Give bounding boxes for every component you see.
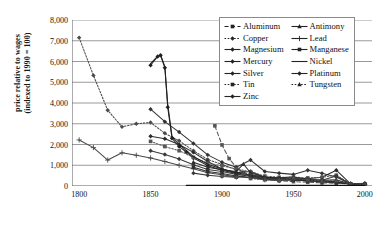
data-point xyxy=(231,25,235,29)
data-point xyxy=(220,143,224,147)
legend-marker-icon xyxy=(224,80,241,89)
legend-item-manganese[interactable]: Manganese xyxy=(291,44,349,56)
x-tick-label: 1950 xyxy=(285,190,301,199)
legend-marker-icon xyxy=(224,57,241,66)
legend-marker-icon xyxy=(291,34,308,43)
y-tick-label: 7,000 xyxy=(34,36,68,45)
data-point xyxy=(163,152,167,156)
y-tick-label: 8,000 xyxy=(34,16,68,25)
x-tick-label: 1800 xyxy=(71,190,87,199)
legend-item-mercury[interactable]: Mercury xyxy=(224,56,284,68)
data-point xyxy=(163,136,167,140)
y-tick-label: 6,000 xyxy=(34,57,68,66)
data-point xyxy=(206,170,210,174)
legend-label: Lead xyxy=(310,34,327,43)
legend-marker-icon xyxy=(291,69,308,78)
x-tick-label: 1850 xyxy=(143,190,159,199)
legend-marker-icon xyxy=(291,22,308,31)
data-point xyxy=(191,160,195,164)
data-point xyxy=(306,168,310,172)
chart-legend: AluminumAntimonyCopperLeadMagnesiumManga… xyxy=(219,17,355,106)
y-axis-title-line1: price relative to wages xyxy=(13,0,23,148)
data-point xyxy=(230,48,234,52)
data-point xyxy=(148,134,152,138)
data-point xyxy=(177,157,181,161)
x-tick-label: 1900 xyxy=(214,190,230,199)
legend-item-platinum[interactable]: Platinum xyxy=(291,67,349,79)
y-tick-label: 5,000 xyxy=(34,78,68,87)
legend-marker-icon xyxy=(291,57,308,66)
x-axis-tick-labels: 18001850190019502000 xyxy=(0,190,382,204)
data-point xyxy=(163,145,167,149)
y-tick-label: 1,000 xyxy=(34,161,68,170)
y-tick-label: 4,000 xyxy=(34,99,68,108)
legend-marker-icon xyxy=(291,80,308,89)
legend-label: Copper xyxy=(243,34,268,43)
legend-label: Nickel xyxy=(310,57,333,66)
legend-item-tungsten[interactable]: Tungsten xyxy=(291,79,349,91)
legend-item-aluminum[interactable]: Aluminum xyxy=(224,21,284,33)
data-point xyxy=(77,35,81,39)
data-point xyxy=(213,124,217,128)
data-point xyxy=(277,171,281,175)
data-point xyxy=(320,171,324,175)
data-point xyxy=(220,164,224,168)
data-point xyxy=(230,71,234,75)
legend-item-nickel[interactable]: Nickel xyxy=(291,56,349,68)
y-tick-label: 3,000 xyxy=(34,119,68,128)
legend-marker-icon xyxy=(291,45,308,54)
legend-marker-icon xyxy=(224,92,241,101)
data-point xyxy=(191,171,195,175)
legend-label: Mercury xyxy=(243,57,273,66)
legend-item-copper[interactable]: Copper xyxy=(224,33,284,45)
legend-label: Aluminum xyxy=(243,22,280,31)
legend-item-tin[interactable]: Tin xyxy=(224,79,284,91)
data-point xyxy=(230,36,234,40)
data-point xyxy=(134,122,138,126)
data-point xyxy=(231,83,235,87)
legend-label: Zinc xyxy=(243,92,259,101)
data-point xyxy=(297,71,301,75)
legend-marker-icon xyxy=(224,34,241,43)
data-point xyxy=(227,157,231,161)
legend-label: Manganese xyxy=(310,45,349,54)
legend-item-zinc[interactable]: Zinc xyxy=(224,91,284,103)
x-tick-label: 2000 xyxy=(357,190,373,199)
data-point xyxy=(148,149,152,153)
legend-marker-icon xyxy=(224,45,241,54)
data-point xyxy=(230,59,234,63)
chart-root: price relative to wages (indexed to 1990… xyxy=(0,0,382,225)
legend-marker-icon xyxy=(224,22,241,31)
legend-label: Magnesium xyxy=(243,45,284,54)
data-point xyxy=(149,140,153,144)
data-point xyxy=(177,149,181,153)
data-point xyxy=(192,166,196,170)
legend-item-silver[interactable]: Silver xyxy=(224,67,284,79)
data-point xyxy=(91,73,95,77)
legend-label: Silver xyxy=(243,69,264,78)
legend-label: Tungsten xyxy=(310,80,342,89)
y-tick-label: 2,000 xyxy=(34,140,68,149)
data-point xyxy=(206,173,210,177)
legend-marker-icon xyxy=(224,69,241,78)
data-point xyxy=(220,160,224,164)
data-point xyxy=(297,48,301,52)
legend-item-lead[interactable]: Lead xyxy=(291,33,349,45)
legend-item-antimony[interactable]: Antimony xyxy=(291,21,349,33)
legend-label: Antimony xyxy=(310,22,345,31)
legend-item-magnesium[interactable]: Magnesium xyxy=(224,44,284,56)
legend-label: Tin xyxy=(243,80,255,89)
legend-label: Platinum xyxy=(310,69,341,78)
data-point xyxy=(230,94,234,98)
